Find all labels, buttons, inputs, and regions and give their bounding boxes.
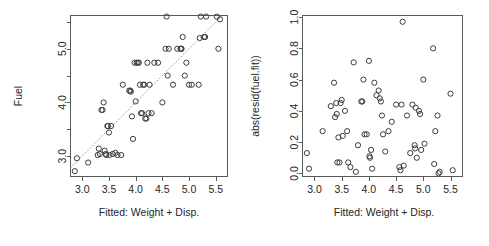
data-point	[155, 60, 160, 65]
data-point	[170, 82, 175, 87]
data-point	[149, 111, 154, 116]
data-point	[394, 102, 399, 107]
data-point	[133, 99, 138, 104]
data-point	[184, 60, 189, 65]
left-data-points	[72, 14, 222, 174]
data-point	[377, 96, 382, 101]
data-point	[339, 97, 344, 102]
scatter-panel-absresid-vs-fitted: 3.03.54.04.55.05.5 0.00.20.40.60.81.0 ab…	[245, 0, 489, 246]
data-point	[334, 111, 339, 116]
data-point	[413, 146, 418, 151]
data-point	[320, 129, 325, 134]
x-tick-label: 3.5	[102, 183, 117, 195]
right-y-tick-labels: 0.00.20.40.60.81.0	[288, 10, 300, 181]
right-plot-svg: 3.03.54.04.55.05.5 0.00.20.40.60.81.0 ab…	[245, 0, 489, 246]
right-x-tick-labels: 3.03.54.04.55.05.5	[307, 183, 458, 195]
data-point	[196, 82, 201, 87]
data-point	[416, 108, 421, 113]
data-point	[130, 136, 135, 141]
x-tick-label: 5.5	[443, 183, 458, 195]
left-axis-ticks	[67, 23, 217, 181]
right-x-axis-title: Fitted: Weight + Disp.	[334, 206, 434, 218]
left-y-axis-title: Fuel	[12, 86, 24, 106]
x-tick-label: 4.0	[362, 183, 377, 195]
left-reference-line-group	[71, 16, 223, 168]
data-point	[331, 80, 336, 85]
y-tick-label: 3.0	[56, 149, 68, 164]
data-point	[86, 160, 91, 165]
data-point	[378, 99, 383, 104]
data-point	[380, 132, 385, 137]
data-point	[370, 166, 375, 171]
data-point	[180, 34, 185, 39]
y-tick-label: 5.0	[56, 41, 68, 56]
left-plot-svg: 3.03.54.04.55.05.5 3.04.05.0 Fuel Fitted…	[0, 0, 244, 246]
data-point	[164, 14, 169, 19]
data-point	[419, 147, 424, 152]
data-point	[448, 91, 453, 96]
data-point	[74, 156, 79, 161]
x-tick-label: 5.0	[182, 183, 197, 195]
y-tick-label: 4.0	[56, 95, 68, 110]
data-point	[376, 88, 381, 93]
right-axis-ticks	[299, 18, 452, 181]
data-point	[72, 169, 77, 174]
x-tick-label: 4.5	[389, 183, 404, 195]
data-point	[421, 77, 426, 82]
data-point	[108, 123, 113, 128]
data-point	[408, 150, 413, 155]
x-tick-label: 3.0	[307, 183, 322, 195]
data-point	[147, 82, 152, 87]
data-point	[366, 58, 371, 63]
data-point	[160, 100, 165, 105]
data-point	[389, 119, 394, 124]
data-point	[182, 73, 187, 78]
data-point	[119, 152, 124, 157]
y-tick-label: 0.4	[288, 103, 300, 118]
data-point	[435, 113, 440, 118]
data-point	[386, 129, 391, 134]
data-point	[353, 169, 358, 174]
x-tick-label: 3.5	[334, 183, 349, 195]
data-point	[433, 129, 438, 134]
data-point	[399, 102, 404, 107]
data-point	[328, 104, 333, 109]
x-tick-label: 5.5	[208, 183, 223, 195]
data-point	[348, 165, 353, 170]
data-point	[361, 77, 366, 82]
x-tick-label: 4.5	[155, 183, 170, 195]
data-point	[165, 73, 170, 78]
data-point	[417, 111, 422, 116]
data-point	[101, 100, 106, 105]
data-point	[351, 60, 356, 65]
data-point	[120, 82, 125, 87]
data-point	[404, 113, 409, 118]
data-point	[398, 168, 403, 173]
data-point	[304, 150, 309, 155]
data-point	[204, 14, 209, 19]
data-point	[96, 146, 101, 151]
data-point	[368, 147, 373, 152]
data-point	[372, 80, 377, 85]
data-point	[306, 166, 311, 171]
data-point	[432, 161, 437, 166]
data-point	[216, 46, 221, 51]
x-tick-label: 3.0	[75, 183, 90, 195]
scatter-panel-fuel-vs-fitted: 3.03.54.04.55.05.5 3.04.05.0 Fuel Fitted…	[0, 0, 244, 246]
figure-container: 3.03.54.04.55.05.5 3.04.05.0 Fuel Fitted…	[0, 0, 489, 246]
data-point	[422, 141, 427, 146]
y-tick-label: 0.6	[288, 72, 300, 87]
data-point	[383, 149, 388, 154]
data-point	[198, 14, 203, 19]
data-point	[379, 113, 384, 118]
data-point	[342, 108, 347, 113]
x-tick-label: 4.0	[128, 183, 143, 195]
data-point	[414, 155, 419, 160]
data-point	[333, 115, 338, 120]
data-point	[413, 105, 418, 110]
data-point	[450, 168, 455, 173]
y-tick-label: 0.8	[288, 41, 300, 56]
data-point	[410, 102, 415, 107]
left-x-tick-labels: 3.03.54.04.55.05.5	[75, 183, 223, 195]
y-tick-label: 1.0	[288, 10, 300, 25]
